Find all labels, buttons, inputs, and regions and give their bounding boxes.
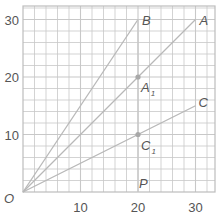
chart: BAA1CC1P 102030102030 O <box>0 0 223 220</box>
label-C1: C1 <box>141 138 156 156</box>
line-OA <box>23 20 196 193</box>
x-tick-label: 30 <box>188 200 202 215</box>
origin-label: O <box>4 191 14 206</box>
label-B: B <box>142 13 151 28</box>
series-lines <box>23 20 196 193</box>
label-A: A <box>199 13 209 28</box>
label-A1: A1 <box>140 80 155 98</box>
x-tick-label: 20 <box>131 200 145 215</box>
point-A1 <box>135 74 140 79</box>
point-C1 <box>135 132 140 137</box>
point-labels: BAA1CC1P <box>135 13 208 192</box>
y-tick-label: 10 <box>5 128 19 143</box>
y-tick-label: 30 <box>5 13 19 28</box>
label-P: P <box>139 176 148 191</box>
line-OC <box>23 106 196 192</box>
y-tick-label: 20 <box>5 70 19 85</box>
label-C: C <box>199 95 209 110</box>
x-tick-label: 10 <box>73 200 87 215</box>
